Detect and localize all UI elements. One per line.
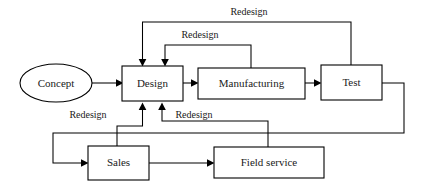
node-design[interactable]: Design <box>122 66 183 101</box>
edge-test-to-design-redesign <box>139 22 351 67</box>
edge-sales-to-design-redesign <box>117 103 146 147</box>
edge-design-to-manufacturing <box>183 79 199 87</box>
flowchart-diagram: Concept Design Manufacturing Test Sales … <box>0 0 424 192</box>
node-sales[interactable]: Sales <box>88 146 149 180</box>
field-service-label: Field service <box>241 156 298 168</box>
edge-label-redesign-manufacturing: Redesign <box>181 29 218 40</box>
edge-label-redesign-sales: Redesign <box>69 109 106 120</box>
edge-manufacturing-to-test <box>305 79 322 87</box>
node-manufacturing[interactable]: Manufacturing <box>198 68 305 99</box>
node-field-service[interactable]: Field service <box>214 147 324 178</box>
edge-label-redesign-field-service: Redesign <box>175 109 212 120</box>
design-label: Design <box>137 77 169 89</box>
sales-label: Sales <box>107 156 130 168</box>
node-test[interactable]: Test <box>321 65 382 100</box>
manufacturing-label: Manufacturing <box>219 77 285 89</box>
flowchart-canvas: Concept Design Manufacturing Test Sales … <box>0 0 424 192</box>
test-label: Test <box>342 76 360 88</box>
edge-manufacturing-to-design-redesign <box>161 45 251 68</box>
edge-sales-to-field-service <box>149 159 215 167</box>
edge-concept-to-design <box>92 79 124 87</box>
node-concept[interactable]: Concept <box>20 64 92 102</box>
edge-label-redesign-test: Redesign <box>230 6 267 17</box>
concept-label: Concept <box>38 77 75 89</box>
